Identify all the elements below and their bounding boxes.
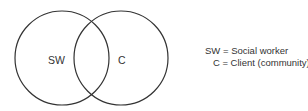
set-label-sw: SW bbox=[48, 54, 65, 66]
set-label-c: C bbox=[118, 54, 126, 66]
legend-line-c: C = Client (community) bbox=[205, 57, 308, 69]
legend-line-sw: SW = Social worker bbox=[205, 45, 308, 57]
legend: SW = Social worker C = Client (community… bbox=[205, 45, 308, 68]
